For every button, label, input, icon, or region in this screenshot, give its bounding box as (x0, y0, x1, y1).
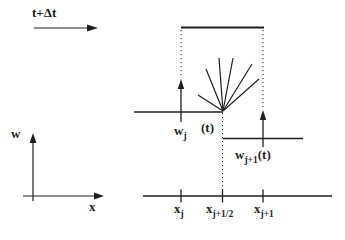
tick-label-xj-half: xj+1/2 (206, 202, 233, 215)
wj-base: w (174, 123, 183, 138)
wj1-state-label: wj+1(t) (235, 148, 271, 161)
x-axis-label: x (89, 200, 96, 213)
tick-xj1-sub: j+1 (261, 209, 274, 219)
w-axis-arrowhead (30, 133, 37, 143)
wj-state-label: wj (174, 124, 187, 137)
tick-xj-half-sub: j+1/2 (213, 209, 234, 219)
wj1-sub: j+1 (244, 155, 257, 165)
riemann-fan (198, 58, 259, 111)
wj-value-arrow-head (178, 79, 184, 89)
wj1-value-arrow-head (260, 110, 266, 120)
tick-xj-sub: j (181, 209, 184, 219)
tick-label-xj1: xj+1 (254, 202, 274, 215)
wj-sub: j (183, 131, 186, 141)
time-arrow-head (87, 24, 98, 31)
wj1-arg: (t) (258, 147, 271, 162)
godunov-scheme-figure: t+Δt w x wj (t) wj+1(t) xj xj+1/2 xj+1 (0, 0, 345, 240)
wj-arg-label: (t) (201, 121, 214, 134)
figure-linework (0, 0, 345, 240)
wj1-base: w (235, 147, 244, 162)
w-axis-label: w (11, 127, 20, 140)
tick-label-xj: xj (174, 202, 184, 215)
time-level-label: t+Δt (32, 6, 56, 19)
